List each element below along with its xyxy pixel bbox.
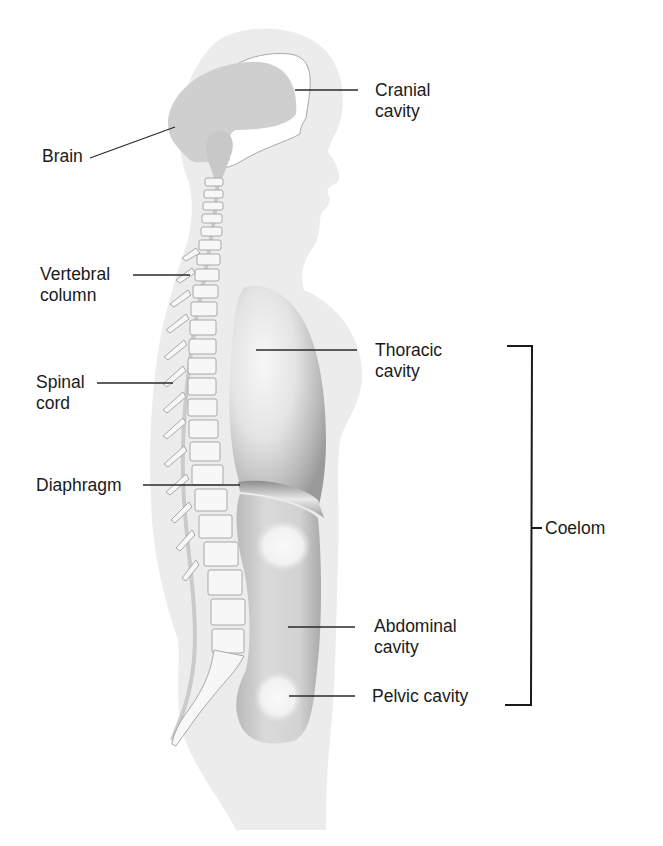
- abdominal-highlight: [255, 520, 311, 572]
- label-abdominal-cavity: Abdominal cavity: [374, 616, 457, 658]
- leader-brain: [90, 127, 175, 158]
- label-vertebral-column: Vertebral column: [40, 264, 110, 306]
- label-pelvic-cavity: Pelvic cavity: [372, 686, 468, 707]
- pelvic-highlight: [254, 671, 302, 723]
- label-diaphragm: Diaphragm: [36, 475, 122, 496]
- label-coelom: Coelom: [545, 518, 605, 539]
- label-spinal-cord: Spinal cord: [36, 372, 85, 414]
- body-cavities-diagram: [0, 0, 663, 846]
- label-brain: Brain: [42, 146, 83, 167]
- label-cranial-cavity: Cranial cavity: [375, 80, 430, 122]
- coelom-bracket: [505, 346, 542, 705]
- label-thoracic-cavity: Thoracic cavity: [375, 340, 442, 382]
